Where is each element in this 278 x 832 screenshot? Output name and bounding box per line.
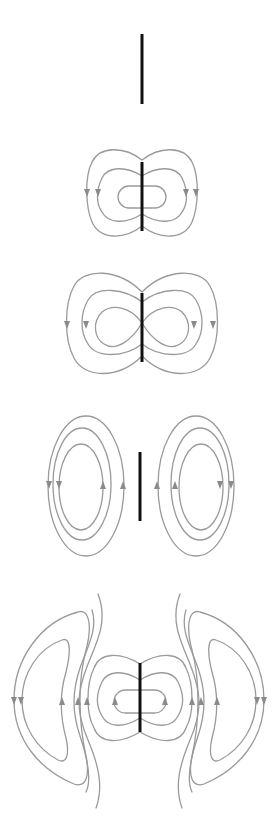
arrow-up-icon: [162, 697, 168, 705]
arrow-up-icon: [154, 481, 160, 489]
panel-stage-2: [84, 150, 199, 236]
arrow-up-icon: [189, 697, 195, 705]
arrow-down-icon: [254, 697, 260, 705]
arrow-down-icon: [261, 697, 267, 705]
arrow-down-icon: [191, 321, 197, 329]
field-line-right-kidney-outer: [189, 611, 264, 784]
dipole-radiation-diagram: Electric field lines radiating from an o…: [0, 0, 278, 832]
arrow-down-icon: [217, 481, 223, 489]
arrow-up-icon: [214, 697, 220, 705]
arrow-down-icon: [84, 189, 90, 197]
arrow-down-icon: [210, 321, 216, 329]
arrow-down-icon: [95, 189, 101, 197]
arrow-up-icon: [100, 481, 106, 489]
arrow-up-icon: [59, 697, 65, 705]
diagram-canvas: [0, 0, 278, 832]
arrow-down-icon: [193, 189, 199, 197]
panel-stage-4: [46, 416, 234, 556]
arrow-down-icon: [11, 697, 17, 705]
field-line-inner-left: [95, 307, 142, 346]
field-line-inner-right: [142, 307, 189, 346]
arrow-up-icon: [84, 697, 90, 705]
field-line-left-inner: [59, 444, 103, 530]
panel-stage-5: [11, 594, 267, 808]
panel-stage-3: [64, 273, 218, 373]
arrow-up-icon: [120, 481, 126, 489]
field-line-right-wave-1: [176, 594, 199, 808]
arrow-down-icon: [18, 697, 24, 705]
field-line-left-wave-1: [79, 594, 102, 808]
arrow-down-icon: [183, 189, 189, 197]
arrow-down-icon: [83, 321, 89, 329]
arrow-up-icon: [172, 481, 178, 489]
arrow-down-icon: [56, 481, 62, 489]
arrow-up-icon: [112, 697, 118, 705]
field-line-right-inner: [179, 444, 223, 530]
arrow-down-icon: [46, 481, 52, 489]
arrow-down-icon: [64, 321, 70, 329]
